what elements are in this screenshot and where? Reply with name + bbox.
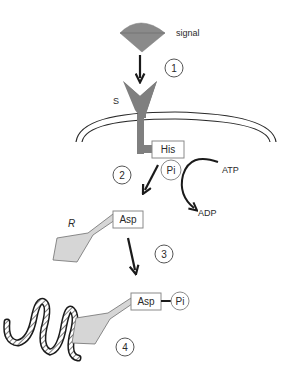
svg-text:Asp: Asp [119, 214, 137, 225]
svg-text:Pi: Pi [176, 296, 185, 307]
svg-text:Asp: Asp [137, 296, 155, 307]
signal-label: signal [176, 28, 200, 38]
svg-text:1: 1 [171, 63, 177, 74]
cell-membrane [76, 112, 276, 142]
atp-label: ATP [222, 165, 239, 175]
arrow-regulator-to-dna [128, 238, 135, 270]
adp-label: ADP [198, 208, 217, 218]
response-regulator [53, 214, 115, 262]
step-4-badge: 4 [116, 338, 134, 356]
signal-transduction-diagram: signal 1 S His 2 Pi ATP ADP R [0, 0, 285, 389]
atp-adp-arrow [182, 159, 218, 208]
bound-regulator [72, 298, 132, 344]
dna-helix [7, 301, 78, 358]
step-2-badge: 2 [113, 166, 131, 184]
svg-text:2: 2 [119, 170, 125, 181]
arrow-his-to-asp [145, 165, 158, 190]
signal-molecule [120, 23, 165, 52]
regulator-label: R [68, 218, 75, 229]
phosphate-1: Pi [161, 160, 181, 180]
svg-text:3: 3 [161, 249, 167, 260]
phosphate-2: Pi [171, 292, 189, 310]
asp-box-phosphorylated: Asp [131, 293, 161, 310]
sensor-label: S [113, 96, 119, 106]
step-3-badge: 3 [155, 245, 173, 263]
svg-text:Pi: Pi [167, 165, 176, 176]
step-1-badge: 1 [165, 59, 183, 77]
svg-text:His: His [161, 144, 175, 155]
svg-text:4: 4 [122, 342, 128, 353]
his-box: His [152, 141, 184, 158]
asp-box: Asp [113, 211, 143, 228]
